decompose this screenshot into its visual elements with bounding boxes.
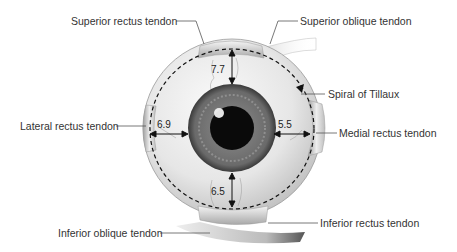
label-superior-rectus-tendon: Superior rectus tendon: [71, 16, 177, 27]
label-medial-rectus-tendon: Medial rectus tendon: [339, 128, 436, 139]
measurement-medial: 5.5: [278, 120, 292, 130]
measurement-inferior: 6.5: [211, 187, 225, 197]
label-inferior-oblique-tendon: Inferior oblique tendon: [58, 228, 163, 239]
label-spiral-of-tillaux: Spiral of Tillaux: [328, 89, 399, 100]
measurement-lateral: 6.9: [157, 120, 171, 130]
corneal-reflection: [214, 108, 224, 118]
label-lateral-rectus-tendon: Lateral rectus tendon: [20, 121, 119, 132]
eye-diagram: Superior rectus tendon Superior oblique …: [0, 0, 457, 252]
label-superior-oblique-tendon: Superior oblique tendon: [300, 16, 412, 27]
label-inferior-rectus-tendon: Inferior rectus tendon: [320, 218, 419, 229]
measurement-superior: 7.7: [211, 65, 225, 75]
